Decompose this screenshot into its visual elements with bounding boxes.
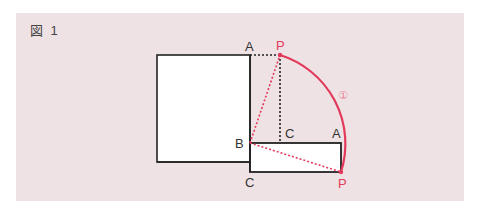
label-B: B [235,136,244,151]
label-C-bottom: C [245,175,254,190]
label-C-inner: C [285,126,294,141]
point-P-top-dot [278,53,282,57]
page-corner-mark [452,206,468,213]
label-A-right: A [332,126,341,141]
point-P-bottom-dot [339,170,343,174]
red-dotted-B-to-P-top [250,55,280,143]
label-P-bottom: P [338,176,347,191]
geometry-diagram: A P B C A C P ① [0,0,479,213]
arc-marker-1: ① [338,89,348,102]
label-P-top: P [276,38,285,53]
label-A-top: A [245,39,254,54]
